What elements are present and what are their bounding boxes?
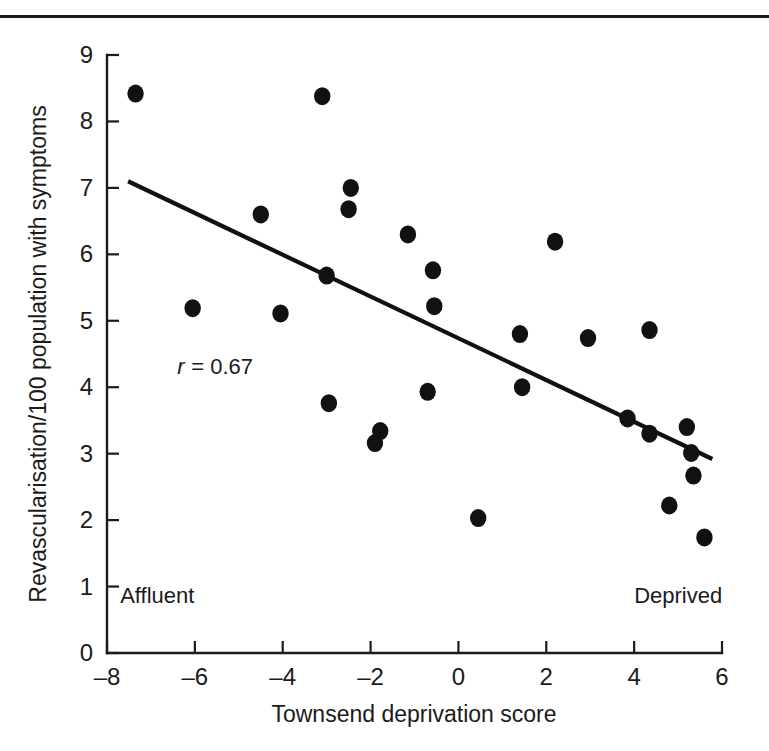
y-tick-label: 8 bbox=[80, 107, 93, 134]
x-tick-label: 2 bbox=[540, 663, 553, 690]
data-point bbox=[514, 378, 530, 396]
scatter-plot-svg: 0123456789 –8–6–4–20246 Townsend depriva… bbox=[0, 0, 769, 751]
x-tick-label: 6 bbox=[715, 663, 728, 690]
y-tick-label: 0 bbox=[80, 639, 93, 666]
data-point bbox=[547, 233, 563, 251]
annotation-correlation: r = 0.67 bbox=[177, 354, 253, 379]
data-point bbox=[683, 444, 699, 462]
data-point bbox=[512, 325, 528, 343]
data-point bbox=[184, 299, 200, 317]
data-point bbox=[400, 225, 416, 243]
figure-container: 0123456789 –8–6–4–20246 Townsend depriva… bbox=[0, 0, 769, 751]
data-point bbox=[314, 87, 330, 105]
data-point bbox=[127, 85, 143, 103]
data-point bbox=[661, 496, 677, 514]
y-tick-label: 3 bbox=[80, 440, 93, 467]
y-axis-tick-labels: 0123456789 bbox=[80, 41, 93, 666]
data-point bbox=[679, 418, 695, 436]
x-axis-title: Townsend deprivation score bbox=[271, 701, 556, 727]
y-tick-label: 1 bbox=[80, 573, 93, 600]
y-tick-label: 4 bbox=[80, 373, 93, 400]
data-point bbox=[696, 528, 712, 546]
y-tick-label: 2 bbox=[80, 506, 93, 533]
x-tick-label: 4 bbox=[627, 663, 640, 690]
data-point bbox=[253, 205, 269, 223]
data-point bbox=[580, 329, 596, 347]
x-tick-label: –4 bbox=[269, 663, 296, 690]
data-point bbox=[321, 394, 337, 412]
y-axis-title: Revascularisation/100 population with sy… bbox=[25, 105, 51, 602]
x-axis-ticks bbox=[107, 641, 722, 653]
data-point bbox=[272, 304, 288, 322]
x-tick-label: 0 bbox=[452, 663, 465, 690]
y-tick-label: 7 bbox=[80, 174, 93, 201]
data-point bbox=[619, 409, 635, 427]
data-point bbox=[372, 422, 388, 440]
data-point bbox=[425, 261, 441, 279]
data-point bbox=[470, 509, 486, 527]
affluent-label: Affluent bbox=[120, 583, 194, 608]
x-tick-label: –8 bbox=[94, 663, 121, 690]
deprived-label: Deprived bbox=[634, 583, 722, 608]
data-point bbox=[426, 297, 442, 315]
data-point bbox=[343, 179, 359, 197]
correlation-value: = 0.67 bbox=[191, 354, 253, 379]
y-tick-label: 9 bbox=[80, 41, 93, 68]
x-tick-label: –6 bbox=[182, 663, 209, 690]
y-tick-label: 5 bbox=[80, 307, 93, 334]
data-points-group bbox=[127, 85, 712, 547]
data-point bbox=[685, 467, 701, 485]
y-axis-ticks bbox=[107, 55, 119, 653]
y-tick-label: 6 bbox=[80, 240, 93, 267]
x-axis-tick-labels: –8–6–4–20246 bbox=[94, 663, 729, 690]
x-tick-label: –2 bbox=[357, 663, 384, 690]
correlation-symbol: r bbox=[177, 354, 186, 379]
data-point bbox=[340, 200, 356, 218]
data-point bbox=[419, 383, 435, 401]
data-point bbox=[641, 321, 657, 339]
data-point bbox=[318, 267, 334, 285]
data-point bbox=[641, 425, 657, 443]
